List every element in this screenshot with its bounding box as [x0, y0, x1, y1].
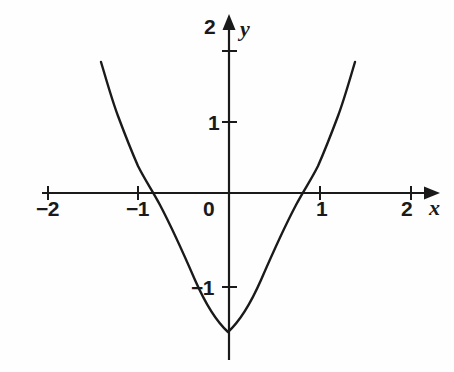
x-tick-label-1: 1 [316, 198, 327, 219]
y-tick-label-2: 2 [204, 16, 215, 37]
x-tick-label--1: −1 [126, 198, 149, 219]
y-tick-label--1: −1 [191, 277, 214, 298]
y-tick-label-1: 1 [208, 112, 219, 133]
x-tick-label-0: 0 [203, 198, 214, 219]
y-axis-arrowhead [223, 14, 236, 30]
x-tick-label--2: −2 [36, 198, 59, 219]
y-axis-name: y [240, 18, 250, 40]
plot-canvas [0, 0, 454, 372]
function-plot-figure: −2 −1 0 1 2 2 1 −1 x y [0, 0, 454, 372]
x-tick-label-2: 2 [401, 198, 412, 219]
x-axis-name: x [429, 197, 440, 219]
